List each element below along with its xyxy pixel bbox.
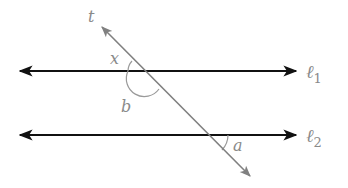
label-t: t xyxy=(88,7,95,26)
label-l2: ℓ2 xyxy=(306,125,322,150)
diagram-canvas: t x b a ℓ1 ℓ2 xyxy=(0,0,348,188)
label-a: a xyxy=(233,136,243,155)
angle-arc-x-b xyxy=(126,71,159,97)
angle-arc-xtop xyxy=(128,61,132,71)
label-l1: ℓ1 xyxy=(306,61,322,86)
label-b: b xyxy=(121,97,131,116)
label-x: x xyxy=(110,49,119,68)
